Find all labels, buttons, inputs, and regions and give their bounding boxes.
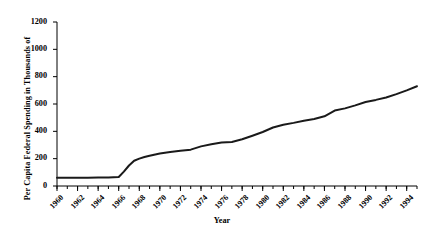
y-tick-label: 1200 bbox=[17, 18, 47, 26]
y-tick-label: 200 bbox=[17, 154, 47, 162]
x-axis-title: Year bbox=[0, 216, 444, 225]
data-line-series-0 bbox=[57, 86, 417, 178]
y-tick-label: 600 bbox=[17, 100, 47, 108]
y-tick-label: 400 bbox=[17, 127, 47, 135]
y-tick-label: 0 bbox=[17, 182, 47, 190]
y-tick-label: 1000 bbox=[17, 45, 47, 53]
chart-container: Per Capita Federal Spending in Thousands… bbox=[0, 0, 444, 237]
y-tick-label: 800 bbox=[17, 72, 47, 80]
